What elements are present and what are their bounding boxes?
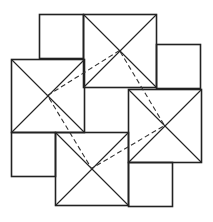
small-squares-group [12,15,201,207]
small-square-left-lower [12,133,56,177]
dashed-quadrilateral [48,51,165,169]
dashed-center-quadrilateral [48,51,165,169]
small-square-right-upper [157,45,201,89]
large-square-left [12,60,85,133]
large-square-bottom [56,133,129,206]
large-square-top [84,15,157,88]
large-square-right [129,90,202,163]
small-square-top-left [40,15,84,59]
small-square-bottom-right [129,163,173,207]
tiling-diagram [0,0,213,222]
